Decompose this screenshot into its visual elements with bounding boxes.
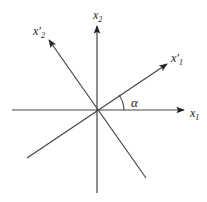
alpha-label: α	[131, 95, 139, 110]
x2-label: x2	[92, 8, 102, 24]
x1-prime-label: x′1	[170, 51, 183, 67]
rotation-diagram: x2 x′2 x′1 x1 α	[0, 0, 207, 202]
angle-arc	[119, 95, 124, 110]
x1-label: x1	[189, 106, 199, 122]
x2-prime-label: x′2	[32, 24, 45, 40]
